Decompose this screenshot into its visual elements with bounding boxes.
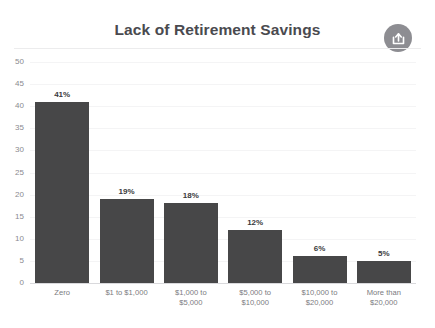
bar[interactable] — [35, 102, 89, 283]
y-tick-label: 10 — [0, 235, 24, 243]
bar-slot[interactable]: 41% — [35, 62, 89, 283]
y-tick-label: 0 — [0, 279, 24, 287]
plot-area: 05101520253035404550 41%19%18%12%6%5% — [30, 62, 416, 283]
bar-series: 41%19%18%12%6%5% — [30, 62, 416, 283]
bar[interactable] — [100, 199, 154, 283]
bar-slot[interactable]: 12% — [228, 62, 282, 283]
x-axis-label-line: $10,000 to — [287, 288, 351, 298]
chart-header: Lack of Retirement Savings — [0, 0, 435, 49]
x-axis-label: Zero — [30, 288, 94, 298]
y-tick-label: 50 — [0, 58, 24, 66]
x-axis-label-line: $10,000 — [223, 298, 287, 308]
x-axis-label-line: $20,000 — [352, 298, 416, 308]
bar-value-label: 6% — [293, 244, 347, 253]
x-axis-label-line: $1,000 to — [159, 288, 223, 298]
x-axis-label-line: $1 to $1,000 — [94, 288, 158, 298]
bar-slot[interactable]: 19% — [100, 62, 154, 283]
y-tick-label: 35 — [0, 124, 24, 132]
x-axis-label: $5,000 to$10,000 — [223, 288, 287, 308]
share-export-icon — [391, 31, 406, 46]
bar[interactable] — [228, 230, 282, 283]
y-tick-label: 20 — [0, 191, 24, 199]
bar[interactable] — [293, 256, 347, 283]
bar[interactable] — [164, 203, 218, 283]
x-axis-label-line: $5,000 — [159, 298, 223, 308]
bar-slot[interactable]: 18% — [164, 62, 218, 283]
y-tick-label: 5 — [0, 257, 24, 265]
bar[interactable] — [357, 261, 411, 283]
x-axis-label-line: More than — [352, 288, 416, 298]
y-tick-label: 40 — [0, 102, 24, 110]
y-tick-label: 45 — [0, 80, 24, 88]
y-tick-label: 25 — [0, 169, 24, 177]
bar-value-label: 18% — [164, 191, 218, 200]
gridline-0 — [30, 283, 416, 284]
x-axis-label-line: $5,000 to — [223, 288, 287, 298]
bar-slot[interactable]: 6% — [293, 62, 347, 283]
x-axis-label: More than$20,000 — [352, 288, 416, 308]
x-axis-labels: Zero$1 to $1,000$1,000 to$5,000$5,000 to… — [30, 288, 416, 322]
x-axis-label-line: Zero — [30, 288, 94, 298]
chart-card: Lack of Retirement Savings 0510152025303… — [0, 0, 435, 328]
x-axis-label: $10,000 to$20,000 — [287, 288, 351, 308]
x-axis-label: $1,000 to$5,000 — [159, 288, 223, 308]
bar-value-label: 19% — [100, 187, 154, 196]
y-tick-label: 15 — [0, 213, 24, 221]
bar-value-label: 5% — [357, 249, 411, 258]
header-divider — [14, 48, 421, 49]
bar-value-label: 41% — [35, 90, 89, 99]
bar-value-label: 12% — [228, 218, 282, 227]
x-axis-label: $1 to $1,000 — [94, 288, 158, 298]
y-tick-label: 30 — [0, 146, 24, 154]
bar-slot[interactable]: 5% — [357, 62, 411, 283]
chart-title: Lack of Retirement Savings — [0, 21, 435, 39]
x-axis-label-line: $20,000 — [287, 298, 351, 308]
